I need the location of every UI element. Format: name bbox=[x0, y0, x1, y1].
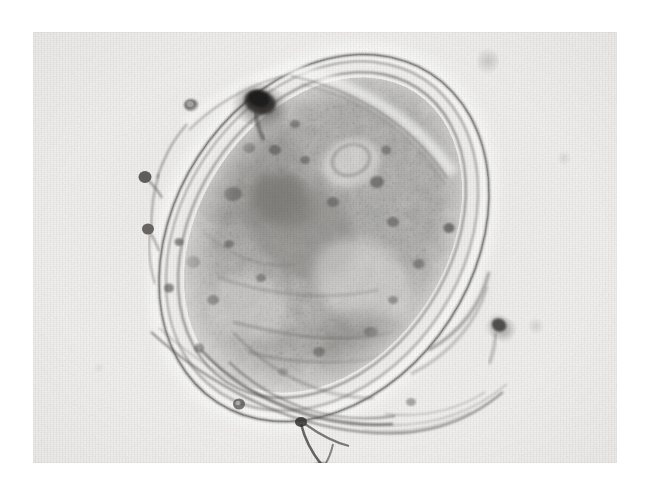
peripheral-bulb-top-right bbox=[381, 146, 391, 155]
figure-page bbox=[0, 0, 652, 487]
peripheral-bulb-right bbox=[486, 313, 517, 364]
peripheral-bulb-right-upper bbox=[444, 223, 455, 233]
filament-attachment-node bbox=[295, 417, 307, 427]
peripheral-bulb-right-lower bbox=[406, 398, 416, 406]
micrograph-plate bbox=[33, 32, 617, 463]
marginal-granule-left-inner bbox=[175, 238, 184, 246]
specimen-layer bbox=[33, 32, 617, 463]
specimen-drawing bbox=[33, 32, 617, 463]
filament-bulb-lower-left bbox=[233, 399, 245, 410]
peripheral-bulb-left-low bbox=[164, 284, 174, 293]
